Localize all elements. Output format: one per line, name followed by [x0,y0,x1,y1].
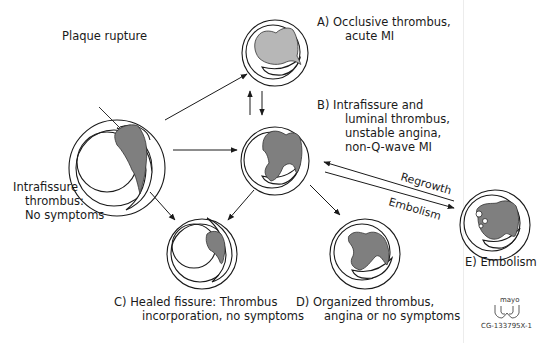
mayo-logo-icon [495,305,519,318]
outcome-a-label: A) Occlusive thrombus, acute MI [317,15,451,43]
origin-caption-line: No symptoms [13,208,104,222]
outcome-d-line: D) Organized thrombus, [296,295,460,309]
outcome-e-line: E) Embolism [465,255,537,269]
origin-caption-line: thrombus: [13,194,104,208]
outcome-d-label: D) Organized thrombus, angina or no symp… [296,295,460,323]
outcome-b-label: B) Intrafissure and luminal thrombus, un… [317,98,450,154]
plaque-rupture-pointer [99,107,120,128]
outcome-a-line: acute MI [317,29,451,43]
origin-caption: Intrafissure thrombus: No symptoms [13,180,104,222]
mayo-logo-text: mayo [500,296,520,304]
outcome-a-line: A) Occlusive thrombus, [317,15,451,29]
regrowth-label: Regrowth [399,170,453,197]
arrow-origin-to-a [165,74,247,120]
thrombus-a [255,28,301,64]
plaque-rupture-label: Plaque rupture [62,29,147,43]
vessel-d-organized [330,219,400,289]
vessel-e-embolism [460,190,530,260]
outcome-b-line: unstable angina, [317,126,450,140]
outcome-d-line: angina or no symptoms [296,309,460,323]
figure-code: CG-133795X-1 [481,322,532,330]
outcome-c-label: C) Healed fissure: Thrombus incorporatio… [114,295,304,323]
vessel-c-healed [167,218,237,289]
arrow-b-to-d [310,185,340,215]
thrombus-d [348,232,389,270]
thrombus-pathway-diagram: Regrowth Embolism [0,0,545,343]
arrow-origin-to-c [150,192,175,220]
arrow-b-to-c [228,190,254,220]
outcome-c-line: incorporation, no symptoms [114,309,304,323]
outcome-c-line: C) Healed fissure: Thrombus [114,295,304,309]
thrombus-c [206,231,225,263]
outcome-b-line: B) Intrafissure and [317,98,450,112]
outcome-b-line: non-Q-wave MI [317,140,450,154]
thrombus-origin [115,125,147,194]
embolism-arrow-label: Embolism [387,195,442,222]
outcome-b-line: luminal thrombus, [317,112,450,126]
vessel-b-intrafissure-luminal [241,127,309,195]
outcome-e-label: E) Embolism [465,255,537,269]
vessel-a-occlusive [242,20,308,86]
origin-caption-line: Intrafissure [13,180,104,194]
